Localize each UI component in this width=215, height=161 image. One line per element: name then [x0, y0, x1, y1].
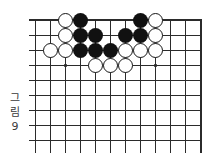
grid-vline: [35, 19, 36, 153]
figure-label-number: 9: [12, 120, 19, 134]
white-stone: [148, 13, 163, 28]
white-stone: [133, 43, 148, 58]
star-point: [154, 64, 157, 67]
white-stone: [58, 13, 73, 28]
black-stone: [73, 13, 88, 28]
black-stone: [133, 28, 148, 43]
grid-vline: [185, 19, 186, 153]
grid-hline: [29, 110, 202, 111]
white-stone: [118, 58, 133, 73]
black-stone: [88, 43, 103, 58]
grid-hline: [29, 35, 202, 36]
star-point: [64, 64, 67, 67]
white-stone: [148, 28, 163, 43]
white-stone: [148, 43, 163, 58]
white-stone: [43, 43, 58, 58]
grid-vline: [170, 19, 171, 153]
white-stone: [118, 43, 133, 58]
black-stone: [73, 28, 88, 43]
white-stone: [103, 58, 118, 73]
book-page: 그 림 9: [0, 0, 215, 161]
grid-hline: [29, 95, 202, 96]
black-stone: [118, 28, 133, 43]
grid-vline: [50, 19, 51, 153]
black-stone: [73, 43, 88, 58]
figure-label-char-2: 림: [10, 106, 20, 120]
figure-label-char-1: 그: [10, 92, 20, 106]
white-stone: [58, 28, 73, 43]
black-stone: [103, 43, 118, 58]
board-top-edge-line: [29, 19, 202, 21]
board-right-edge-line: [200, 19, 202, 153]
white-stone: [88, 58, 103, 73]
grid-hline: [29, 125, 202, 126]
white-stone: [58, 43, 73, 58]
figure-label: 그 림 9: [5, 92, 25, 134]
black-stone: [88, 28, 103, 43]
grid-hline: [29, 140, 202, 141]
grid-hline: [29, 80, 202, 81]
grid-vline: [110, 19, 111, 153]
black-stone: [133, 13, 148, 28]
